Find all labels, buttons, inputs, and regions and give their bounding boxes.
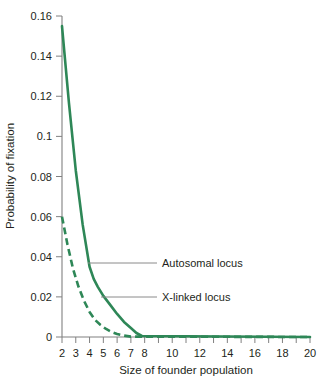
y-tick-label: 0 xyxy=(46,331,52,343)
x-axis-tick-labels: 2345678101214161820 xyxy=(59,347,316,359)
x-tick-label: 6 xyxy=(114,347,120,359)
y-tick-label: 0.16 xyxy=(31,10,52,22)
x-tick-label: 20 xyxy=(304,347,316,359)
y-tick-label: 0.02 xyxy=(31,291,52,303)
x-tick-label: 2 xyxy=(59,347,65,359)
probability-of-fixation-chart: 00.020.040.060.080.10.120.140.16 2345678… xyxy=(0,0,322,384)
x-axis-title: Size of founder population xyxy=(119,364,253,376)
y-axis-ticks xyxy=(56,16,62,337)
x-tick-label: 8 xyxy=(142,347,148,359)
x-tick-label: 12 xyxy=(194,347,206,359)
x-tick-label: 16 xyxy=(249,347,261,359)
y-axis-title: Probability of fixation xyxy=(4,123,16,229)
y-axis-tick-labels: 00.020.040.060.080.10.120.140.16 xyxy=(31,10,52,343)
x-tick-label: 14 xyxy=(221,347,233,359)
x-tick-label: 5 xyxy=(100,347,106,359)
x-tick-label: 7 xyxy=(128,347,134,359)
y-tick-label: 0.04 xyxy=(31,251,52,263)
series-line-x-linked-locus xyxy=(62,217,310,337)
annotation-label-autosomal-locus: Autosomal locus xyxy=(162,257,243,269)
x-tick-label: 4 xyxy=(86,347,92,359)
annotation-leaders xyxy=(88,263,157,297)
x-tick-label: 3 xyxy=(73,347,79,359)
y-tick-label: 0.08 xyxy=(31,171,52,183)
chart-figure: 00.020.040.060.080.10.120.140.16 2345678… xyxy=(0,0,322,384)
x-tick-label: 10 xyxy=(166,347,178,359)
annotation-label-x-linked-locus: X-linked locus xyxy=(162,291,231,303)
y-tick-label: 0.1 xyxy=(37,130,52,142)
y-tick-label: 0.14 xyxy=(31,50,52,62)
x-tick-label: 18 xyxy=(276,347,288,359)
y-tick-label: 0.06 xyxy=(31,211,52,223)
y-tick-label: 0.12 xyxy=(31,90,52,102)
